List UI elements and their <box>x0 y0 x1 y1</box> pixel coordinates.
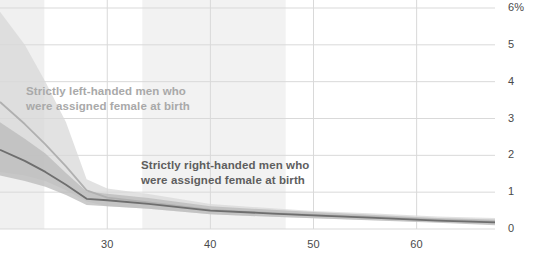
y-tick-label-5: 5 <box>508 38 514 50</box>
y-tick-label-4: 4 <box>508 75 514 87</box>
chart-plot-area <box>0 0 533 257</box>
x-tick-label-60: 60 <box>410 238 423 250</box>
left-handed-annotation: Strictly left-handed men who were assign… <box>26 84 190 114</box>
right-handed-annotation-line1: Strictly right-handed men who <box>141 158 309 173</box>
band-middle <box>142 0 285 229</box>
left-handed-annotation-line2: were assigned female at birth <box>26 99 190 114</box>
y-tick-label-1: 1 <box>508 185 514 197</box>
x-tick-label-40: 40 <box>204 238 217 250</box>
y-tick-label-2: 2 <box>508 148 514 160</box>
left-handed-annotation-line1: Strictly left-handed men who <box>26 84 190 99</box>
right-handed-annotation-line2: were assigned female at birth <box>141 173 309 188</box>
x-tick-label-30: 30 <box>101 238 114 250</box>
chart-container: 0123456% 30405060 Strictly left-handed m… <box>0 0 533 257</box>
right-handed-annotation: Strictly right-handed men who were assig… <box>141 158 309 188</box>
y-tick-label-3: 3 <box>508 112 514 124</box>
x-tick-label-50: 50 <box>307 238 320 250</box>
y-tick-label-0: 0 <box>508 222 514 234</box>
y-tick-label-6: 6% <box>508 1 524 13</box>
